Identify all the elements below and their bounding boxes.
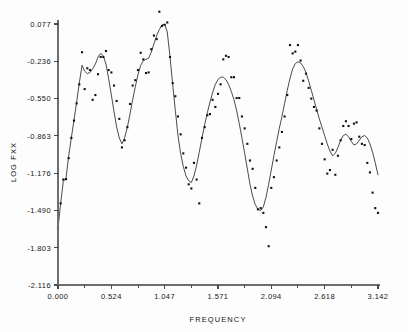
- data-point: [68, 157, 70, 159]
- data-point: [217, 93, 219, 95]
- data-point: [297, 44, 299, 46]
- data-point: [372, 192, 374, 194]
- data-point: [238, 97, 240, 99]
- data-point: [156, 38, 158, 40]
- data-point: [220, 83, 222, 85]
- data-point: [102, 56, 104, 58]
- data-point: [361, 143, 363, 145]
- data-point: [340, 139, 342, 141]
- data-point: [236, 97, 238, 99]
- data-point: [76, 102, 78, 104]
- data-point: [161, 25, 163, 27]
- data-point: [145, 72, 147, 74]
- data-point: [180, 133, 182, 135]
- data-point: [254, 187, 256, 189]
- data-point: [369, 171, 371, 173]
- x-axis-title: FREQUENCY: [190, 315, 247, 324]
- data-point: [337, 155, 339, 157]
- data-point: [294, 51, 296, 53]
- y-axis-title: LOG FXX: [9, 142, 18, 182]
- data-point: [313, 106, 315, 108]
- data-point: [233, 76, 235, 78]
- data-point: [268, 245, 270, 247]
- data-point: [158, 11, 160, 13]
- data-point: [334, 174, 336, 176]
- x-axis: 0.0000.5241.0471.5712.0942.6183.142: [48, 285, 389, 301]
- data-point: [278, 146, 280, 148]
- data-point: [148, 71, 150, 73]
- y-tick-label: -1.490: [27, 206, 51, 215]
- data-point: [350, 138, 352, 140]
- data-point: [276, 159, 278, 161]
- data-point: [137, 69, 139, 71]
- data-point: [177, 115, 179, 117]
- data-point: [142, 58, 144, 60]
- data-point: [73, 120, 75, 122]
- data-point: [316, 109, 318, 111]
- data-point: [302, 80, 304, 82]
- data-point: [241, 115, 243, 117]
- smoothed-spectrum-line: [58, 24, 378, 228]
- data-point: [206, 114, 208, 116]
- data-point: [78, 83, 80, 85]
- data-point: [270, 187, 272, 189]
- data-point: [310, 98, 312, 100]
- data-point: [289, 44, 291, 46]
- data-point: [356, 121, 358, 123]
- data-point: [70, 137, 72, 139]
- y-tick-label: 0.077: [30, 20, 51, 29]
- data-point: [134, 79, 136, 81]
- data-point: [129, 103, 131, 105]
- data-point: [204, 126, 206, 128]
- data-point: [358, 136, 360, 138]
- data-point: [121, 146, 123, 148]
- data-point: [185, 167, 187, 169]
- data-point: [342, 125, 344, 127]
- data-point: [150, 48, 152, 50]
- x-tick-label: 2.618: [314, 292, 335, 301]
- data-point: [332, 149, 334, 151]
- data-point: [326, 173, 328, 175]
- data-point: [62, 179, 64, 181]
- data-point: [329, 169, 331, 171]
- data-point: [374, 207, 376, 209]
- data-point: [222, 58, 224, 60]
- data-point: [164, 24, 166, 26]
- data-point: [153, 34, 155, 36]
- data-point: [209, 113, 211, 115]
- data-point: [252, 168, 254, 170]
- data-point: [257, 208, 259, 210]
- data-point: [105, 50, 107, 52]
- data-point: [60, 202, 62, 204]
- data-point: [89, 69, 91, 71]
- y-axis: 0.077-0.236-0.550-0.863-1.176-1.490-1.80…: [27, 20, 59, 290]
- x-tick-label: 1.571: [208, 292, 229, 301]
- data-point: [366, 162, 368, 164]
- data-point: [308, 87, 310, 89]
- data-point: [300, 59, 302, 61]
- data-point: [116, 100, 118, 102]
- data-point: [201, 137, 203, 139]
- data-point: [124, 139, 126, 141]
- data-point: [166, 21, 168, 23]
- data-point: [94, 94, 96, 96]
- data-point: [126, 126, 128, 128]
- data-point: [324, 158, 326, 160]
- data-point: [92, 99, 94, 101]
- data-point: [353, 123, 355, 125]
- chart-canvas: 0.077-0.236-0.550-0.863-1.176-1.490-1.80…: [0, 0, 408, 332]
- data-point: [246, 143, 248, 145]
- x-tick-label: 3.142: [368, 292, 389, 301]
- data-point: [225, 55, 227, 57]
- data-point: [292, 52, 294, 54]
- data-point: [281, 131, 283, 133]
- data-point: [249, 159, 251, 161]
- data-point: [260, 207, 262, 209]
- data-point: [305, 73, 307, 75]
- data-point: [348, 125, 350, 127]
- y-tick-label: -1.176: [27, 169, 51, 178]
- data-point: [182, 152, 184, 154]
- data-point: [284, 115, 286, 117]
- data-point: [118, 118, 120, 120]
- data-point: [190, 187, 192, 189]
